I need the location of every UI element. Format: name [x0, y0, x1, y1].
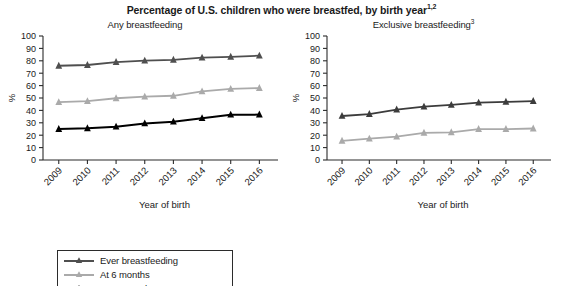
right-chart-y-tick-label: 80: [310, 56, 320, 66]
left-chart-y-tick-label: 70: [26, 69, 36, 79]
right-chart-y-tick-label: 30: [310, 118, 320, 128]
right-chart-series: [339, 97, 537, 119]
legend-swatch-ever-breastfeeding: [63, 255, 95, 267]
right-chart-y-tick-label: 50: [310, 93, 320, 103]
left-chart-y-tick-label: 40: [26, 106, 36, 116]
panel-left-title: Any breastfeeding: [0, 18, 290, 30]
right-chart-x-tick-label: 2015: [489, 165, 512, 188]
right-chart-x-tick-label: 2010: [352, 165, 375, 188]
right-chart-y-tick-label: 40: [310, 106, 320, 116]
figure-title-superscript: 1,2: [427, 3, 436, 10]
legend-label: Ever breastfeeding: [100, 255, 178, 267]
left-chart-y-axis-label: %: [6, 93, 17, 102]
left-chart-y-tick-label: 80: [26, 56, 36, 66]
panel-right-title: Exclusive breastfeeding3: [284, 18, 563, 30]
right-chart-x-tick-label: 2012: [407, 165, 430, 188]
right-chart-x-axis-label: Year of birth: [418, 199, 469, 210]
left-chart-y-tick-label: 0: [31, 155, 36, 165]
left-chart-series: [55, 84, 262, 105]
legend-item[interactable]: Ever breastfeeding: [63, 254, 226, 268]
left-chart-series: [55, 52, 262, 69]
right-chart-x-tick-label: 2016: [516, 165, 539, 188]
left-chart-y-tick-label: 50: [26, 93, 36, 103]
panel-right-title-superscript: 3: [471, 18, 475, 25]
panel-right-title-text: Exclusive breastfeeding: [373, 19, 471, 30]
left-chart-y-tick-label: 100: [21, 31, 36, 41]
right-chart-y-tick-label: 70: [310, 69, 320, 79]
chart-any-breastfeeding: 0102030405060708090100%20092010201120122…: [0, 30, 290, 260]
legend-label: At 6 months: [100, 269, 150, 281]
left-chart-y-tick-label: 30: [26, 118, 36, 128]
panel-any-breastfeeding: Any breastfeeding 0102030405060708090100…: [0, 18, 290, 286]
right-chart-y-tick-label: 10: [310, 143, 320, 153]
figure-container: Percentage of U.S. children who were bre…: [0, 0, 563, 286]
right-chart-y-tick-label: 20: [310, 131, 320, 141]
figure-title: Percentage of U.S. children who were bre…: [0, 3, 563, 16]
right-chart-y-tick-label: 100: [305, 31, 320, 41]
left-chart-x-tick-label: 2010: [70, 165, 93, 188]
right-chart-series: [339, 125, 537, 144]
left-chart-y-tick-label: 10: [26, 143, 36, 153]
panel-left-title-text: Any breastfeeding: [108, 19, 183, 30]
right-chart-y-tick-label: 0: [315, 155, 320, 165]
right-chart-x-tick-label: 2014: [461, 165, 484, 188]
legend-item[interactable]: At 6 months: [63, 268, 226, 282]
right-chart-x-tick-label: 2011: [380, 165, 402, 187]
legend-item[interactable]: At 12 months: [63, 282, 226, 286]
left-chart-x-axis-label: Year of birth: [139, 199, 190, 210]
left-chart-x-tick-label: 2013: [156, 165, 179, 188]
left-chart-x-tick-label: 2014: [185, 165, 208, 188]
right-chart-x-tick-label: 2009: [325, 165, 348, 188]
left-chart-y-tick-label: 60: [26, 81, 36, 91]
left-chart-x-tick-label: 2009: [41, 165, 64, 188]
right-chart-y-tick-label: 90: [310, 44, 320, 54]
legend-swatch-at-6-months: [63, 269, 95, 281]
left-chart-x-tick-label: 2012: [127, 165, 150, 188]
right-chart-y-axis-label: %: [290, 93, 301, 102]
left-chart-x-tick-label: 2015: [213, 165, 236, 188]
left-chart-series: [55, 111, 262, 132]
panel-exclusive-breastfeeding: Exclusive breastfeeding3 010203040506070…: [284, 18, 563, 286]
left-chart-x-tick-label: 2016: [242, 165, 265, 188]
legend-left: Ever breastfeeding At 6 months At 12 mon…: [57, 250, 233, 286]
chart-exclusive-breastfeeding: 0102030405060708090100%20092010201120122…: [284, 30, 563, 260]
left-chart-y-tick-label: 20: [26, 131, 36, 141]
left-chart-y-tick-label: 90: [26, 44, 36, 54]
right-chart-x-tick-label: 2013: [434, 165, 457, 188]
right-chart-y-tick-label: 60: [310, 81, 320, 91]
figure-title-text: Percentage of U.S. children who were bre…: [127, 4, 427, 16]
left-chart-x-tick-label: 2011: [99, 165, 121, 187]
